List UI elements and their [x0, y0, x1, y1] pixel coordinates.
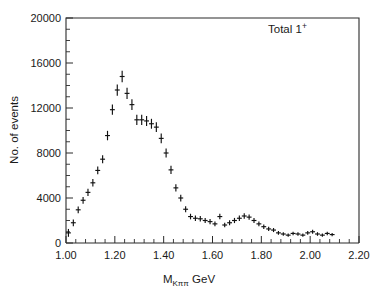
x-tick-label: 1.40: [153, 249, 174, 261]
y-tick-label: 16000: [30, 57, 61, 69]
x-tick-label: 1.00: [55, 249, 76, 261]
events-vs-invariant-mass-plot: 1.001.201.401.601.802.002.20 04000800012…: [0, 0, 378, 294]
y-tick-label: 12000: [30, 102, 61, 114]
y-tick-label: 8000: [37, 147, 61, 159]
y-tick-label: 0: [55, 237, 61, 249]
x-tick-label: 1.60: [202, 249, 223, 261]
x-axis-title-subscript: Kππ: [173, 279, 190, 288]
annotation-text: Total 1: [268, 23, 302, 35]
plot-annotation: Total 1+: [268, 21, 307, 35]
x-tick-label: 1.20: [104, 249, 125, 261]
y-axis-title-text: No. of events: [8, 96, 20, 164]
y-tick-label: 4000: [37, 192, 61, 204]
x-tick-label: 2.20: [348, 249, 369, 261]
chart-figure: 1.001.201.401.601.802.002.20 04000800012…: [0, 0, 378, 294]
annotation-superscript: +: [302, 21, 307, 31]
x-tick-label: 2.00: [299, 249, 320, 261]
x-axis-title-unit-text: GeV: [192, 273, 215, 285]
y-axis-title: No. of events: [8, 96, 20, 164]
svg-text:Total 1+: Total 1+: [268, 21, 307, 35]
x-tick-label: 1.80: [251, 249, 272, 261]
x-axis-title-symbol: M: [163, 273, 173, 285]
y-tick-label: 20000: [30, 12, 61, 24]
